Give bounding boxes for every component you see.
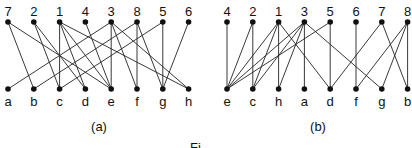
bottom-node-label: h — [185, 94, 192, 109]
edge-8-f — [356, 22, 408, 89]
edge-1-d — [60, 22, 86, 89]
top-node-label: 6 — [185, 4, 192, 19]
top-node-label: 4 — [223, 4, 230, 19]
bottom-node-label: a — [4, 94, 12, 109]
panel-b-graph: 42135678echadfgb — [223, 4, 411, 109]
bottom-node-f — [134, 86, 140, 92]
bottom-node-label: a — [301, 94, 309, 109]
edge-3-h — [279, 22, 305, 89]
caption-a: (a) — [91, 119, 107, 134]
bipartite-graph-figure: 72143856abcdefgh 42135678echadfgb (a) (b… — [0, 0, 412, 148]
bottom-node-a — [302, 86, 308, 92]
bottom-node-label: b — [30, 94, 37, 109]
edge-4-e — [85, 22, 111, 89]
edge-8-g — [137, 22, 163, 89]
top-node-label: 4 — [82, 4, 89, 19]
top-node-6 — [186, 19, 192, 25]
top-node-2 — [250, 19, 256, 25]
bottom-node-label: d — [82, 94, 89, 109]
top-node-3 — [302, 19, 308, 25]
top-node-label: 7 — [378, 4, 385, 19]
top-node-8 — [134, 19, 140, 25]
bottom-node-label: d — [327, 94, 334, 109]
bottom-node-label: c — [56, 94, 63, 109]
edge-3-g — [304, 22, 381, 89]
bottom-node-label: b — [404, 94, 411, 109]
top-node-label: 1 — [56, 4, 63, 19]
bottom-node-e — [224, 86, 230, 92]
top-node-label: 8 — [404, 4, 411, 19]
bottom-node-label: g — [159, 94, 166, 109]
bottom-node-label: f — [354, 94, 358, 109]
top-node-label: 3 — [108, 4, 115, 19]
top-node-1 — [276, 19, 282, 25]
top-node-label: 2 — [249, 4, 256, 19]
top-node-5 — [327, 19, 333, 25]
bottom-node-c — [57, 86, 63, 92]
top-node-label: 8 — [133, 4, 140, 19]
bottom-node-a — [5, 86, 11, 92]
bottom-node-f — [353, 86, 359, 92]
bottom-node-b — [31, 86, 37, 92]
top-node-4 — [224, 19, 230, 25]
panel-a-graph: 72143856abcdefgh — [4, 4, 192, 109]
bottom-node-d — [83, 86, 89, 92]
bottom-node-label: e — [108, 94, 115, 109]
top-node-label: 7 — [4, 4, 11, 19]
bottom-node-label: c — [250, 94, 257, 109]
edge-3-f — [111, 22, 137, 89]
top-node-7 — [5, 19, 11, 25]
caption-b: (b) — [310, 119, 326, 134]
top-node-4 — [83, 19, 89, 25]
bottom-node-c — [250, 86, 256, 92]
top-node-label: 3 — [301, 4, 308, 19]
top-node-2 — [31, 19, 37, 25]
bottom-node-g — [160, 86, 166, 92]
top-node-7 — [379, 19, 385, 25]
bottom-node-label: g — [378, 94, 385, 109]
top-node-label: 6 — [352, 4, 359, 19]
edge-3-e — [227, 22, 304, 89]
top-node-label: 5 — [159, 4, 166, 19]
figure-label-fragment: Fi — [190, 140, 201, 148]
top-node-1 — [57, 19, 63, 25]
top-node-label: 1 — [275, 4, 282, 19]
bottom-node-e — [108, 86, 114, 92]
bottom-node-h — [186, 86, 192, 92]
top-node-8 — [405, 19, 411, 25]
top-node-5 — [160, 19, 166, 25]
bottom-node-h — [276, 86, 282, 92]
edge-8-b — [34, 22, 137, 89]
edge-2-c — [34, 22, 60, 89]
edge-2-e — [227, 22, 253, 89]
bottom-node-d — [327, 86, 333, 92]
edge-6-g — [163, 22, 189, 89]
top-node-3 — [108, 19, 114, 25]
bottom-node-label: e — [223, 94, 230, 109]
top-node-6 — [353, 19, 359, 25]
bottom-node-g — [379, 86, 385, 92]
bottom-node-b — [405, 86, 411, 92]
edge-7-b — [8, 22, 34, 89]
bottom-node-label: f — [135, 94, 139, 109]
top-node-label: 2 — [30, 4, 37, 19]
bottom-node-label: h — [275, 94, 282, 109]
top-node-label: 5 — [327, 4, 334, 19]
